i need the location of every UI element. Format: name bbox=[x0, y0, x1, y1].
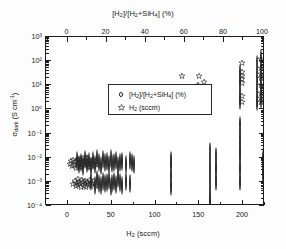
circle-marker-icon bbox=[113, 92, 129, 96]
axis-tick bbox=[261, 61, 264, 62]
axis-tick bbox=[261, 166, 264, 167]
axis-tick bbox=[261, 101, 264, 102]
axis-tick bbox=[203, 37, 204, 40]
axis-tick bbox=[176, 202, 177, 205]
axis-tick bbox=[46, 73, 49, 74]
axis-tick bbox=[46, 40, 49, 41]
axis-tick bbox=[67, 200, 68, 205]
bottom-tick-label: 200 bbox=[236, 210, 248, 219]
axis-tick bbox=[46, 142, 49, 143]
axis-tick bbox=[261, 62, 264, 63]
axis-tick bbox=[46, 198, 49, 199]
data-point-circle bbox=[239, 145, 241, 163]
data-point-star bbox=[94, 162, 100, 168]
legend: [H2]/[H2+SiH4] (%) H2 (sccm) bbox=[108, 84, 212, 115]
axis-tick bbox=[46, 85, 49, 86]
data-point-star bbox=[179, 72, 185, 78]
top-tick-label: 60 bbox=[180, 27, 188, 36]
axis-tick bbox=[46, 43, 49, 44]
y-tick-label: 10⁻¹ bbox=[24, 128, 42, 137]
axis-tick bbox=[125, 37, 126, 40]
axis-tick bbox=[46, 101, 49, 102]
axis-tick bbox=[261, 162, 264, 163]
axis-tick bbox=[261, 125, 264, 126]
data-point-circle bbox=[125, 173, 127, 191]
axis-tick bbox=[259, 205, 264, 206]
axis-tick bbox=[46, 166, 49, 167]
axis-tick bbox=[261, 164, 264, 165]
axis-tick bbox=[164, 37, 165, 40]
axis-tick bbox=[46, 90, 49, 91]
axis-tick bbox=[261, 88, 264, 89]
top-axis-title: [H2]/[H2+SiH4] (%) bbox=[0, 9, 286, 18]
data-point-circle bbox=[170, 178, 172, 196]
axis-tick bbox=[261, 65, 264, 66]
axis-tick bbox=[261, 43, 264, 44]
axis-tick bbox=[46, 182, 49, 183]
axis-tick bbox=[46, 67, 49, 68]
axis-tick bbox=[46, 205, 51, 206]
axis-tick bbox=[261, 186, 264, 187]
axis-tick bbox=[46, 94, 49, 95]
axis-tick bbox=[261, 46, 264, 47]
data-point-circle bbox=[121, 177, 123, 195]
axis-tick bbox=[261, 70, 264, 71]
legend-label-circle: [H2]/[H2+SiH4] (%) bbox=[129, 91, 186, 99]
bottom-tick-label: 50 bbox=[107, 210, 115, 219]
y-tick-label: 10² bbox=[24, 56, 42, 65]
bottom-tick-label: 150 bbox=[192, 210, 204, 219]
axis-tick bbox=[264, 202, 265, 205]
axis-tick bbox=[261, 37, 264, 38]
axis-tick bbox=[46, 49, 49, 50]
axis-tick bbox=[46, 87, 49, 88]
axis-tick bbox=[46, 110, 49, 111]
axis-tick bbox=[261, 73, 264, 74]
bottom-tick-label: 0 bbox=[65, 210, 69, 219]
data-point-circle bbox=[209, 191, 211, 204]
axis-tick bbox=[261, 174, 264, 175]
axis-tick bbox=[261, 138, 264, 139]
axis-tick bbox=[46, 193, 49, 194]
axis-tick bbox=[46, 136, 49, 137]
axis-tick bbox=[261, 193, 264, 194]
axis-tick bbox=[46, 114, 49, 115]
axis-tick bbox=[46, 135, 49, 136]
data-point-star bbox=[239, 60, 245, 66]
axis-tick bbox=[46, 116, 49, 117]
axis-tick bbox=[46, 158, 49, 159]
axis-tick bbox=[46, 53, 49, 54]
data-point-circle bbox=[129, 175, 131, 193]
axis-tick bbox=[261, 38, 264, 39]
axis-tick bbox=[242, 200, 243, 205]
axis-tick bbox=[46, 62, 49, 63]
legend-entry-star: H2 (sccm) bbox=[113, 101, 207, 114]
data-point-circle bbox=[133, 156, 135, 174]
axis-tick bbox=[46, 159, 49, 160]
axis-tick bbox=[46, 121, 49, 122]
axis-tick bbox=[261, 77, 264, 78]
axis-tick bbox=[261, 53, 264, 54]
axis-tick bbox=[261, 159, 264, 160]
axis-tick bbox=[46, 112, 49, 113]
axis-tick bbox=[46, 186, 49, 187]
axis-tick bbox=[261, 97, 264, 98]
axis-tick bbox=[145, 37, 146, 42]
axis-tick bbox=[261, 158, 264, 159]
axis-tick bbox=[46, 149, 49, 150]
bottom-tick-label: 100 bbox=[149, 210, 161, 219]
y-tick-label: 10³ bbox=[24, 32, 42, 41]
axis-tick bbox=[46, 160, 49, 161]
axis-tick bbox=[242, 37, 243, 40]
axis-tick bbox=[261, 188, 264, 189]
axis-tick bbox=[261, 41, 264, 42]
axis-tick bbox=[261, 87, 264, 88]
axis-tick bbox=[261, 145, 264, 146]
axis-tick bbox=[46, 92, 49, 93]
data-point-star bbox=[258, 75, 263, 81]
axis-tick bbox=[261, 112, 264, 113]
axis-tick bbox=[261, 85, 264, 86]
axis-tick bbox=[46, 65, 49, 66]
axis-tick bbox=[261, 185, 264, 186]
axis-tick bbox=[46, 70, 49, 71]
axis-tick bbox=[261, 118, 264, 119]
